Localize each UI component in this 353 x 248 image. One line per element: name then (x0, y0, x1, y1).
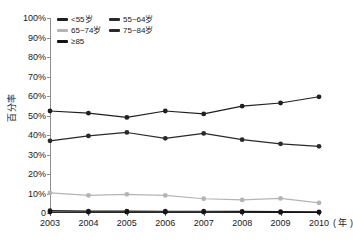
data-point (278, 196, 283, 201)
data-point (86, 210, 91, 215)
y-axis-tick-label: 20% (28, 170, 46, 179)
chart-legend: <55岁55~64岁65~74岁75~84岁≥85 (57, 14, 169, 47)
y-axis-tick-label: 60% (28, 92, 46, 101)
data-point (240, 137, 245, 142)
data-point (48, 210, 53, 215)
y-axis-tick-label: 30% (28, 150, 46, 159)
x-axis-tick-label: 2003 (40, 219, 60, 228)
legend-label: 65~74岁 (71, 26, 101, 35)
legend-swatch-icon (109, 29, 120, 32)
plot-area: 100%90%80%70%60%50%40%30%20%10%0 2003200… (50, 18, 319, 213)
y-axis-tick-label: 10% (28, 189, 46, 198)
data-point (163, 136, 168, 141)
data-point (240, 198, 245, 203)
y-axis-title: 百分率 (5, 78, 18, 138)
data-point (163, 210, 168, 215)
data-point (201, 112, 206, 117)
y-axis-tick-label: 0 (41, 209, 46, 218)
data-point (124, 130, 129, 135)
legend-label: ≥85 (71, 37, 84, 46)
x-axis-tick-label: 2008 (232, 219, 252, 228)
y-axis-tick-label: 90% (28, 33, 46, 42)
x-axis-tick-label: 2009 (271, 219, 291, 228)
legend-item[interactable]: 75~84岁 (109, 25, 169, 35)
data-point (86, 111, 91, 116)
data-point (163, 109, 168, 114)
data-point (124, 210, 129, 215)
legend-item[interactable]: 55~64岁 (109, 14, 169, 24)
series-55~64岁 (48, 130, 322, 149)
data-point (317, 200, 322, 205)
data-point (48, 109, 53, 114)
data-point (124, 115, 129, 120)
legend-swatch-icon (57, 29, 68, 32)
series-layer (50, 18, 319, 213)
legend-label: 75~84岁 (123, 26, 153, 35)
legend-label: <55岁 (71, 15, 93, 24)
data-point (124, 192, 129, 197)
data-point (86, 134, 91, 139)
legend-swatch-icon (109, 18, 120, 21)
series-75~84岁 (48, 94, 322, 119)
data-point (278, 141, 283, 146)
data-point (240, 104, 245, 109)
legend-label: 55~64岁 (123, 15, 153, 24)
x-axis-unit-label: ( 年 ) (333, 219, 353, 228)
data-point (163, 193, 168, 198)
x-axis-tick-label: 2010 (309, 219, 329, 228)
x-axis-tick-label: 2007 (194, 219, 214, 228)
x-axis-tick-label: 2005 (117, 219, 137, 228)
y-axis-tick-label: 100% (23, 14, 46, 23)
y-axis-tick-label: 50% (28, 111, 46, 120)
data-point (240, 210, 245, 215)
data-point (278, 101, 283, 106)
data-point (317, 210, 322, 215)
x-axis-tick-label: 2004 (78, 219, 98, 228)
data-point (48, 138, 53, 143)
y-axis-tick-label: 70% (28, 72, 46, 81)
x-axis-tick-label: 2006 (155, 219, 175, 228)
data-point (201, 196, 206, 201)
data-point (86, 193, 91, 198)
y-axis-tick-label: 40% (28, 131, 46, 140)
data-point (278, 210, 283, 215)
series-≥85 (48, 210, 322, 215)
legend-item[interactable]: <55岁 (57, 14, 109, 24)
legend-swatch-icon (57, 40, 68, 43)
data-point (317, 94, 322, 99)
data-point (201, 131, 206, 136)
y-axis-tick-label: 80% (28, 53, 46, 62)
data-point (317, 144, 322, 149)
series-65~74岁 (48, 191, 322, 206)
data-point (201, 210, 206, 215)
data-point (48, 191, 53, 196)
legend-item[interactable]: ≥85 (57, 36, 109, 46)
legend-item[interactable]: 65~74岁 (57, 25, 109, 35)
legend-swatch-icon (57, 18, 68, 21)
